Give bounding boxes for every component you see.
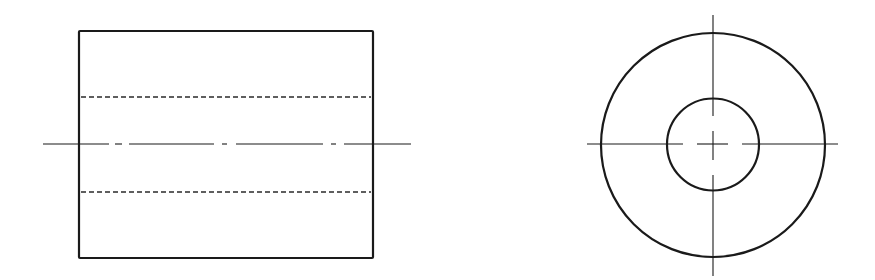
side-view	[587, 15, 838, 276]
technical-drawing	[0, 0, 875, 280]
front-view	[43, 31, 411, 258]
drawing-canvas	[0, 0, 875, 280]
